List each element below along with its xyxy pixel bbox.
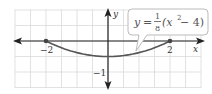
equation-fraction-denominator: 8: [155, 24, 160, 33]
equation-rest: − 4): [180, 16, 204, 29]
point-neg2: [44, 39, 49, 44]
point-pos2: [168, 39, 173, 44]
x-axis: [13, 38, 205, 45]
x-tick-label-2: 2: [167, 45, 173, 55]
graph: −2 2 −1 x y y = 1 8 (x 2 − 4): [0, 0, 212, 94]
y-axis-label: y: [112, 9, 119, 19]
x-tick-label-neg2: −2: [40, 45, 53, 55]
x-axis-label: x: [193, 44, 198, 54]
y-tick-label-neg1: −1: [93, 68, 106, 78]
equation-equals: =: [143, 16, 152, 29]
equation-fraction-numerator: 1: [155, 12, 160, 21]
equation-lhs: y: [133, 16, 141, 29]
equation-paren-x: (x: [162, 16, 173, 29]
